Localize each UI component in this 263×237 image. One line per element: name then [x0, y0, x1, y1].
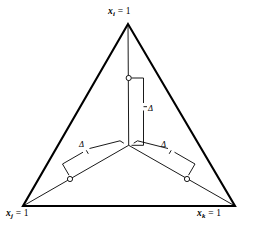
marker-point-right — [184, 176, 189, 181]
median-line-left — [23, 145, 129, 206]
simplex-diagram-svg — [0, 0, 263, 237]
delta-label-top: Δ — [148, 103, 153, 113]
marker-point-top — [126, 75, 131, 80]
vertex-right-eq: = 1 — [206, 208, 222, 218]
median-line-top — [128, 24, 129, 145]
median-line-right — [129, 145, 235, 206]
bracket-left — [63, 141, 124, 175]
vertex-label-top: xi = 1 — [108, 6, 131, 18]
delta-label-left: Δ — [79, 139, 84, 149]
marker-point-left — [67, 176, 72, 181]
ternary-simplex-figure: xi = 1 xj = 1 xk = 1 Δ Δ Δ — [0, 0, 263, 237]
vertex-left-eq: = 1 — [13, 208, 29, 218]
bracket-left-tick — [86, 150, 88, 154]
bracket-top — [132, 78, 144, 145]
vertex-label-bottom-right: xk = 1 — [197, 208, 221, 220]
outer-triangle — [23, 24, 235, 206]
vertex-top-eq: = 1 — [115, 6, 131, 16]
delta-label-right: Δ — [161, 139, 166, 149]
vertex-label-bottom-left: xj = 1 — [6, 208, 29, 220]
bracket-right-tick — [169, 150, 171, 154]
